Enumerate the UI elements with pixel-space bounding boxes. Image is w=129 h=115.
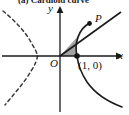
figure-graphic	[0, 0, 129, 115]
point-one-zero-marker	[74, 53, 80, 59]
y-axis-arrow	[57, 6, 64, 13]
x-axis-label: x	[118, 50, 123, 61]
point-p-marker	[87, 21, 92, 26]
y-axis-label: y	[48, 3, 53, 14]
ray-through-p	[60, 12, 121, 56]
figure-container: (a) Cardioid curve y x O P (1, 0)	[0, 0, 129, 115]
point-p-label: P	[95, 13, 102, 24]
origin-label: O	[50, 58, 58, 69]
point-one-zero-label: (1, 0)	[78, 60, 102, 71]
dashed-curve	[3, 11, 38, 105]
shaded-region	[60, 24, 89, 56]
